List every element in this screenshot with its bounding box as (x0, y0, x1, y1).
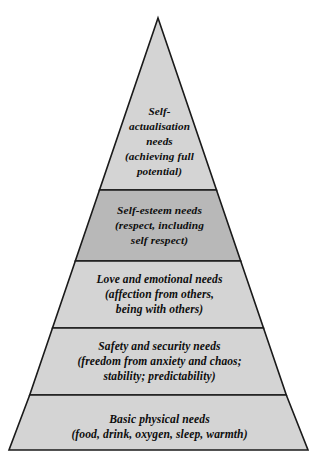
pyramid-shape-group (0, 0, 319, 463)
pyramid-tier-4-shape (30, 328, 287, 395)
pyramid-tier-2-shape (75, 190, 240, 261)
pyramid-diagram: Self- actualisation needs (achieving ful… (0, 0, 319, 463)
pyramid-tier-5-shape (9, 395, 308, 450)
pyramid-tier-3-shape (53, 261, 264, 328)
pyramid-tier-1-shape (100, 18, 217, 190)
